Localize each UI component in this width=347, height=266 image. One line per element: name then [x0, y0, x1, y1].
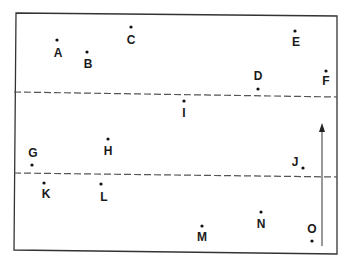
point-dot — [106, 137, 109, 140]
point-c: C — [127, 25, 136, 47]
point-dot — [301, 166, 304, 169]
point-o: O — [307, 222, 316, 243]
point-label: I — [182, 106, 185, 120]
point-a: A — [54, 38, 63, 60]
point-m: M — [197, 224, 207, 244]
point-label: M — [197, 230, 207, 244]
frame-border — [14, 13, 337, 254]
point-j: J — [292, 155, 305, 170]
point-label: K — [42, 187, 51, 201]
point-dot — [55, 38, 58, 41]
point-dot — [30, 163, 33, 166]
point-dot — [310, 239, 313, 242]
point-label: O — [307, 222, 316, 236]
point-label: C — [127, 33, 136, 47]
point-dot — [129, 25, 132, 28]
point-dot — [182, 99, 185, 102]
dashed-line-lower-boundary — [14, 173, 337, 177]
point-f: F — [322, 69, 329, 88]
point-dot — [293, 29, 296, 32]
point-k: K — [42, 181, 51, 201]
point-dot — [85, 50, 88, 53]
point-label: E — [292, 35, 300, 49]
point-dot — [42, 181, 45, 184]
point-dot — [99, 182, 102, 185]
point-label: J — [292, 155, 299, 169]
point-g: G — [28, 146, 37, 167]
point-diagram: ABCDEFGHIJKLMNO — [0, 0, 347, 266]
point-e: E — [292, 29, 300, 49]
upward-arrow — [319, 123, 325, 246]
point-b: B — [84, 50, 93, 71]
arrow-head-icon — [319, 123, 325, 132]
point-label: G — [28, 146, 37, 160]
point-l: L — [99, 182, 107, 204]
point-i: I — [182, 99, 185, 120]
point-label: D — [254, 69, 263, 83]
point-dot — [324, 69, 327, 72]
point-dot — [256, 87, 259, 90]
point-label: F — [322, 74, 329, 88]
point-label: L — [100, 190, 107, 204]
point-label: N — [257, 217, 266, 231]
dashed-line-upper-boundary — [14, 92, 337, 97]
point-n: N — [257, 210, 266, 231]
point-label: B — [84, 57, 93, 71]
point-label: A — [54, 46, 63, 60]
point-dot — [200, 224, 203, 227]
point-d: D — [254, 69, 263, 91]
point-label: H — [104, 144, 113, 158]
point-h: H — [104, 137, 113, 158]
point-dot — [259, 210, 262, 213]
